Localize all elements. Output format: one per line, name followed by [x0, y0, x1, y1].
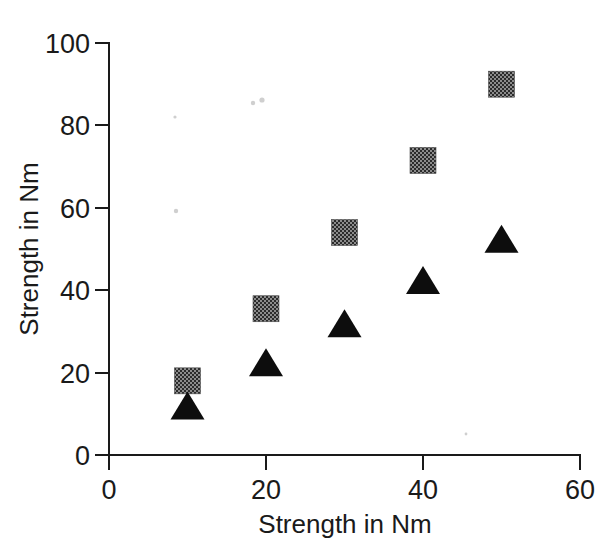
data-point-square [253, 296, 279, 322]
data-point-triangle [485, 225, 519, 253]
y-tick-label-40: 40 [60, 276, 90, 306]
data-point-square [489, 71, 515, 97]
x-tick-label-20: 20 [251, 475, 281, 505]
y-axis-ticks [95, 43, 109, 455]
y-tick-label-60: 60 [60, 194, 90, 224]
scatter-plot-figure: 100 80 60 40 20 0 0 20 40 60 Strength in… [0, 0, 612, 541]
chart-canvas: 100 80 60 40 20 0 0 20 40 60 Strength in… [0, 0, 612, 541]
x-axis-title: Strength in Nm [258, 509, 431, 539]
data-point-triangle [328, 309, 362, 337]
y-tick-label-0: 0 [75, 441, 90, 471]
data-point-triangle [171, 392, 205, 420]
x-tick-label-0: 0 [101, 475, 116, 505]
data-point-square [332, 220, 358, 246]
y-tick-label-20: 20 [60, 359, 90, 389]
x-tick-label-60: 60 [565, 475, 595, 505]
x-axis-ticks [109, 455, 580, 470]
y-axis-title: Strength in Nm [14, 162, 44, 335]
y-tick-label-80: 80 [60, 111, 90, 141]
y-tick-label-100: 100 [45, 29, 90, 59]
x-tick-label-40: 40 [408, 475, 438, 505]
data-markers [171, 71, 519, 419]
data-point-square [410, 147, 436, 173]
data-point-triangle [406, 266, 440, 294]
data-point-square [175, 368, 201, 394]
data-point-triangle [249, 348, 283, 376]
